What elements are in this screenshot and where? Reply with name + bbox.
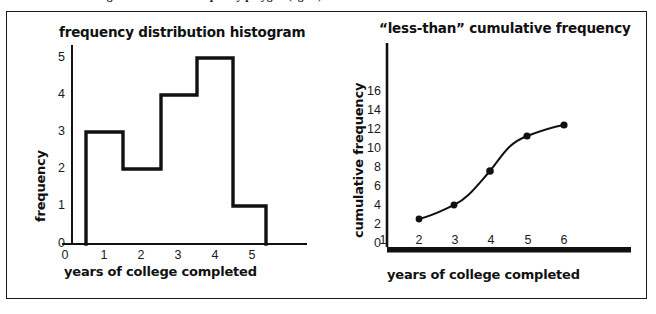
figure-caption-strip: FIGURE 2. Drawing the cumulative frequen… [0,0,656,5]
histogram-ytick-3: 3 [45,124,65,138]
ogive-xtick-3: 3 [446,233,464,247]
figure-caption: FIGURE 2. Drawing the cumulative frequen… [9,0,322,1]
ogive-xtick-2: 2 [410,233,428,247]
ogive-point-5 [560,121,567,128]
histogram-bars-outline [86,58,266,244]
ogive-y-axis-label: cumulative frequency [351,83,366,238]
ogive-point-1 [416,216,423,223]
ogive-plot [337,12,648,300]
histogram-ytick-2: 2 [45,161,65,175]
histogram-y-axis-label: frequency [33,150,48,222]
ogive-point-2 [451,202,458,209]
histogram-xtick-4: 4 [206,248,224,262]
ogive-point-4 [523,132,530,139]
histogram-ytick-4: 4 [45,87,65,101]
ogive-point-3 [486,167,494,175]
histogram-ytick-5: 5 [45,50,65,64]
histogram-xtick-3: 3 [169,248,187,262]
histogram-xtick-2: 2 [132,248,150,262]
histogram-xtick-1: 1 [95,248,113,262]
ogive-xtick-5: 5 [519,233,537,247]
panel-histogram: frequency distribution histogram 5 4 3 2… [7,12,337,300]
histogram-xtick-5: 5 [243,248,261,262]
figure-border-box: frequency distribution histogram 5 4 3 2… [6,11,647,299]
histogram-x-axis-label: years of college completed [64,264,257,279]
ogive-x-axis-label: years of college completed [387,267,580,282]
ogive-x-axis [387,247,631,253]
histogram-xtick-0: 0 [56,248,74,262]
ogive-xtick-1: 1 [374,233,392,247]
figure-page: FIGURE 2. Drawing the cumulative frequen… [0,0,656,314]
ogive-xtick-6: 6 [555,233,573,247]
ogive-xtick-4: 4 [482,233,500,247]
panel-ogive: “less-than” cumulative frequency 16 14 1… [337,12,648,300]
histogram-ytick-1: 1 [45,198,65,212]
